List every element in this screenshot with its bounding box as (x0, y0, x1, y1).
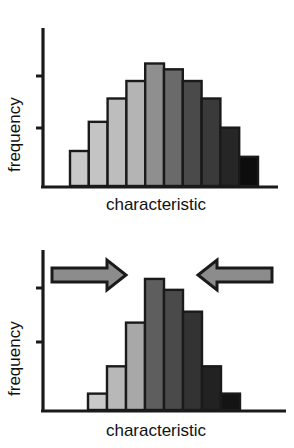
y-axis-label-bottom: frequency (4, 286, 34, 396)
histogram-bar (220, 128, 239, 186)
y-axis-label-top: frequency (4, 62, 34, 172)
histogram-bar (202, 366, 221, 410)
histogram-bar (164, 290, 183, 410)
bar-series-bottom (88, 279, 240, 410)
histogram-bar (126, 323, 145, 410)
histogram-bar (70, 151, 89, 186)
histogram-bar (126, 81, 145, 186)
histogram-bar (107, 366, 126, 410)
x-axis-label-top: characteristic (0, 196, 294, 213)
histogram-bar (88, 394, 107, 410)
histogram-bar (202, 99, 221, 187)
panel-top-plot (0, 0, 294, 224)
histogram-bar (108, 99, 127, 187)
x-axis-label-bottom: characteristic (0, 422, 294, 439)
histogram-bar (183, 81, 202, 186)
panel-bottom-plot (0, 224, 294, 448)
histogram-bar (89, 122, 108, 186)
histogram-bar (221, 394, 240, 410)
histogram-bar (145, 64, 164, 187)
histogram-bar (145, 279, 164, 410)
left-pointing-arrow-icon (198, 260, 272, 290)
histogram-bar (183, 312, 202, 410)
histogram-panel-top: frequency characteristic (0, 0, 294, 224)
right-pointing-arrow-icon (52, 260, 126, 290)
bar-series-top (70, 64, 258, 187)
histogram-bar (239, 157, 258, 186)
histogram-bar (164, 69, 183, 186)
histogram-panel-bottom: frequency characteristic (0, 224, 294, 448)
